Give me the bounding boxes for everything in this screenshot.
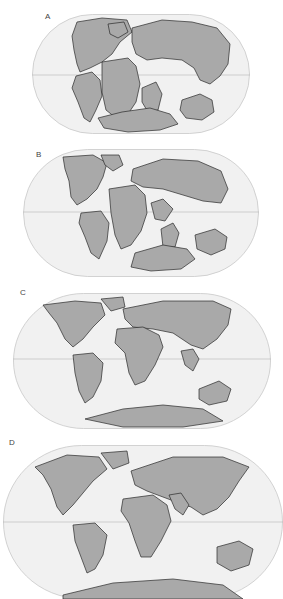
map-panel-a	[32, 14, 250, 134]
map-panel-b	[23, 149, 259, 277]
map-panel-d	[3, 445, 283, 599]
map-panel-c	[13, 293, 271, 429]
